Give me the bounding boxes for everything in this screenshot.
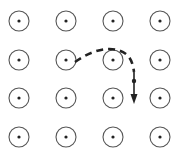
- field-out-of-page-icon: [103, 50, 123, 70]
- field-dot: [17, 135, 20, 138]
- field-dot: [111, 58, 114, 61]
- charged-particle: [132, 79, 136, 83]
- field-out-of-page-icon: [150, 50, 170, 70]
- field-out-of-page-icon: [150, 88, 170, 108]
- field-out-of-page-icon: [9, 88, 29, 108]
- field-dot: [111, 19, 114, 22]
- field-out-of-page-grid: [9, 11, 170, 147]
- field-dot: [17, 19, 20, 22]
- arrow-down-icon: [131, 94, 138, 104]
- field-dot: [158, 58, 161, 61]
- field-dot: [64, 135, 67, 138]
- field-out-of-page-icon: [9, 11, 29, 31]
- field-dot: [64, 58, 67, 61]
- field-dot: [17, 58, 20, 61]
- field-out-of-page-icon: [150, 127, 170, 147]
- field-dot: [158, 96, 161, 99]
- field-dot: [64, 96, 67, 99]
- field-out-of-page-icon: [9, 50, 29, 70]
- field-dot: [64, 19, 67, 22]
- field-out-of-page-icon: [103, 127, 123, 147]
- field-dot: [111, 135, 114, 138]
- field-dot: [158, 19, 161, 22]
- magnetic-field-diagram: [0, 0, 180, 157]
- field-dot: [17, 96, 20, 99]
- field-out-of-page-icon: [56, 50, 76, 70]
- particle-trajectory-dashed: [75, 49, 134, 72]
- field-out-of-page-icon: [9, 127, 29, 147]
- field-out-of-page-icon: [56, 11, 76, 31]
- field-out-of-page-icon: [150, 11, 170, 31]
- field-out-of-page-icon: [103, 88, 123, 108]
- field-dot: [111, 96, 114, 99]
- field-out-of-page-icon: [103, 11, 123, 31]
- field-out-of-page-icon: [56, 88, 76, 108]
- field-out-of-page-icon: [56, 127, 76, 147]
- field-dot: [158, 135, 161, 138]
